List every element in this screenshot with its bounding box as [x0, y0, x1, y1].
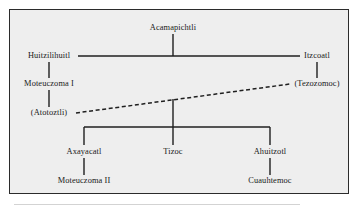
node-ahuitzotl: Ahuitzotl [254, 148, 287, 156]
node-tezozomoc: (Tezozomoc) [294, 80, 339, 88]
node-cuauhtemoc: Cuauhtemoc [248, 177, 291, 185]
node-itzcoatl: Itzcoatl [304, 52, 330, 60]
node-atotoztli: (Atotoztli) [31, 109, 67, 117]
node-axayacatl: Axayacatl [67, 148, 102, 156]
genealogy-chart-frame [9, 9, 349, 194]
figure-stage: Acamapichtli Huitzilihuitl Itzcoatl Mote… [0, 0, 361, 214]
node-moteuczoma-i: Moteuczoma I [24, 80, 74, 88]
node-tizoc: Tizoc [163, 148, 182, 156]
node-acamapichtli: Acamapichtli [150, 24, 196, 32]
node-moteuczoma-ii: Moteuczoma II [58, 177, 111, 185]
caption-divider [14, 204, 300, 205]
node-huitzilihuitl: Huitzilihuitl [28, 52, 70, 60]
